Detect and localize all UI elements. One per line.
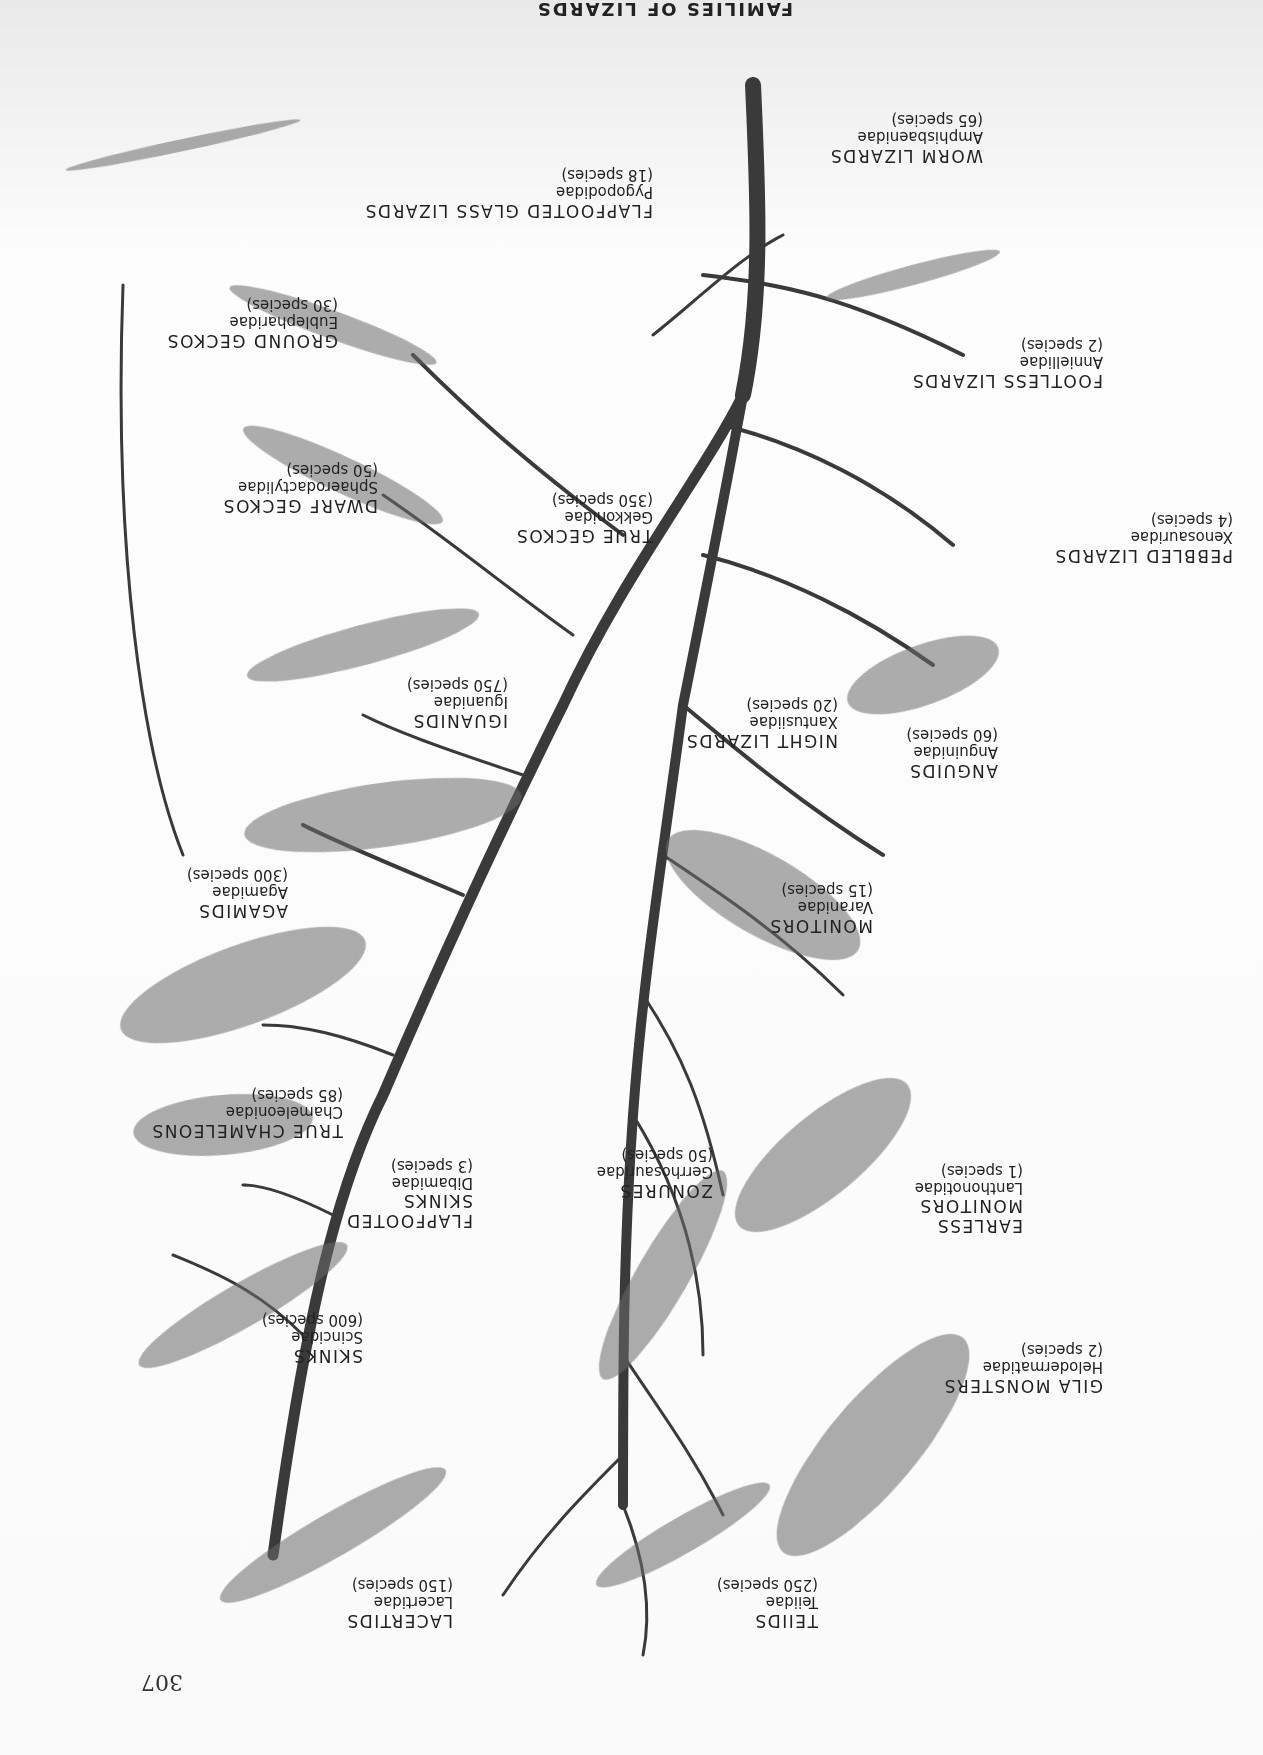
label-true-chameleons: TRUE CHAMELEONS Chameleonidae (85 specie… [151,1086,343,1140]
common-name: ZONURES [597,1180,713,1200]
label-iguanids: IGUANIDS Iguanidae (750 species) [407,676,508,730]
common-name: LACERTIDS [346,1610,453,1630]
label-anguids: ANGUIDS Anguinidae (60 species) [906,726,998,780]
species-count: (300 species) [187,866,288,883]
label-earless-monitors: EARLESS MONITORS Lanthonotidae (1 specie… [883,1161,1023,1235]
family-name: Iguanidae [407,693,508,710]
common-name: GILA MONSTERS [943,1375,1103,1395]
species-count: (600 species) [262,1311,363,1328]
family-name: Varanidae [769,898,873,915]
family-name: Dibamidae [333,1174,473,1191]
family-name: Anguinidae [906,743,998,760]
species-count: (350 species) [516,491,653,508]
species-count: (2 species) [943,1341,1103,1358]
species-count: (20 species) [686,696,838,713]
family-name: Scincidae [262,1328,363,1345]
common-name: EARLESS MONITORS [883,1196,1023,1235]
label-lacertids: LACERTIDS Lacertidae (150 species) [346,1576,453,1630]
label-monitors: MONITORS Varanidae (15 species) [769,881,873,935]
common-name: MONITORS [769,915,873,935]
species-count: (18 species) [364,166,653,183]
family-name: Lanthonotidae [883,1179,1023,1196]
book-page: FAMILIES OF LIZARDS [0,0,1263,1755]
species-count: (3 species) [333,1156,473,1173]
common-name: IGUANIDS [407,710,508,730]
species-count: (65 species) [829,111,983,128]
species-count: (150 species) [346,1576,453,1593]
label-teiids: TEIIDS Teiidae (250 species) [717,1576,818,1630]
label-agamids: AGAMIDS Agamidae (300 species) [187,866,288,920]
species-count: (4 species) [1054,511,1233,528]
page-number: 307 [141,1670,183,1695]
common-name: PEBBLED LIZARDS [1054,545,1233,565]
family-name: Gekkonidae [516,508,653,525]
label-footless-lizards: FOOTLESS LIZARDS Anniellidae (2 species) [911,336,1103,390]
label-night-lizards: NIGHT LIZARDS Xantusiidae (20 species) [686,696,838,750]
common-name: FLAPFOOTED GLASS LIZARDS [364,200,653,220]
species-count: (2 species) [911,336,1103,353]
label-zonures: ZONURES Gerrhosauridae (50 species) [597,1146,713,1200]
common-name: TRUE CHAMELEONS [151,1120,343,1140]
species-count: (50 species) [222,461,378,478]
label-gila-monsters: GILA MONSTERS Helodermatidae (2 species) [943,1341,1103,1395]
common-name: SKINKS [262,1345,363,1365]
species-count: (85 species) [151,1086,343,1103]
family-name: Eublepharidae [166,313,338,330]
label-worm-lizards: WORM LIZARDS Amphisbaenidae (65 species) [829,111,983,165]
family-name: Lacertidae [346,1593,453,1610]
common-name: FOOTLESS LIZARDS [911,370,1103,390]
common-name: ANGUIDS [906,760,998,780]
common-name: NIGHT LIZARDS [686,730,838,750]
species-count: (1 species) [883,1161,1023,1178]
family-name: Agamidae [187,883,288,900]
species-count: (15 species) [769,881,873,898]
family-name: Chameleonidae [151,1103,343,1120]
label-true-geckos: TRUE GECKOS Gekkonidae (350 species) [516,491,653,545]
family-name: Pygopodidae [364,183,653,200]
family-name: Gerrhosauridae [597,1163,713,1180]
label-dwarf-geckos: DWARF GECKOS Sphaerodactylidae (50 speci… [222,461,378,515]
family-name: Teiidae [717,1593,818,1610]
common-name: FLAPFOOTED SKINKS [333,1191,473,1230]
label-skinks: SKINKS Scincidae (600 species) [262,1311,363,1365]
common-name: GROUND GECKOS [166,330,338,350]
common-name: TRUE GECKOS [516,525,653,545]
family-name: Helodermatidae [943,1358,1103,1375]
species-count: (750 species) [407,676,508,693]
label-flapfooted-skinks: FLAPFOOTED SKINKS Dibamidae (3 species) [333,1156,473,1230]
common-name: WORM LIZARDS [829,145,983,165]
family-name: Amphisbaenidae [829,128,983,145]
family-name: Sphaerodactylidae [222,478,378,495]
common-name: TEIIDS [717,1610,818,1630]
species-count: (50 species) [597,1146,713,1163]
family-name: Xantusiidae [686,713,838,730]
species-count: (60 species) [906,726,998,743]
family-name: Xenosauridae [1054,528,1233,545]
species-count: (250 species) [717,1576,818,1593]
label-ground-geckos: GROUND GECKOS Eublepharidae (30 species) [166,296,338,350]
species-count: (30 species) [166,296,338,313]
label-flapfooted-glass-lizards: FLAPFOOTED GLASS LIZARDS Pygopodidae (18… [364,166,653,220]
label-pebbled-lizards: PEBBLED LIZARDS Xenosauridae (4 species) [1054,511,1233,565]
common-name: DWARF GECKOS [222,495,378,515]
common-name: AGAMIDS [187,900,288,920]
family-name: Anniellidae [911,353,1103,370]
